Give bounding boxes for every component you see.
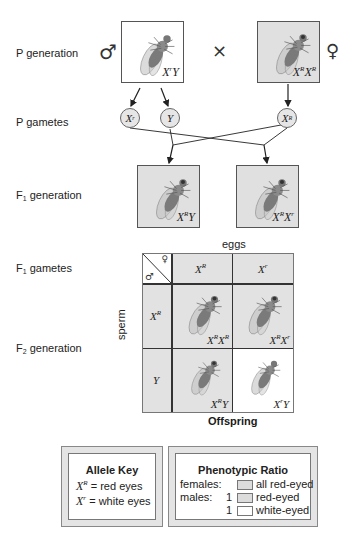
ratio-label: red-eyed bbox=[256, 491, 299, 503]
ratio-label: white-eyed bbox=[256, 504, 309, 516]
offspring-cell-xry: XrY bbox=[233, 349, 293, 412]
egg-allele-1: XR bbox=[195, 262, 206, 275]
allele-key-inner: Allele Key XR = red eyes Xr = white eyes bbox=[68, 453, 156, 520]
f1-female-fly-card: XRXr bbox=[236, 165, 299, 228]
punnett-corner: ♀ ♂ bbox=[143, 254, 171, 283]
sperm-allele-2: Y bbox=[153, 374, 159, 386]
fly-icon bbox=[177, 287, 227, 337]
ratio-label: all red-eyed bbox=[256, 478, 313, 490]
genotype-label: XRXR bbox=[207, 333, 229, 346]
ratio-row-males-white: 1 white-eyed bbox=[176, 504, 310, 517]
label-f1-gametes: F1 gametes bbox=[16, 262, 72, 275]
eggs-label: eggs bbox=[222, 238, 246, 250]
genotype-label: XRXr bbox=[272, 210, 294, 225]
allele-entry-red: XR = red eyes bbox=[76, 479, 155, 494]
gamete-xr-male: Xr bbox=[120, 108, 140, 128]
allele-key-panel: Allele Key XR = red eyes Xr = white eyes bbox=[61, 446, 163, 527]
ratio-count: 1 bbox=[226, 504, 232, 516]
offspring-cell-xRxr: XRXr bbox=[233, 285, 293, 348]
male-symbol-icon: ♂ bbox=[145, 271, 154, 282]
punnett-square: ♀ ♂ XR Xr XR Y XRXR XRXr XRY XrY bbox=[142, 253, 294, 413]
ratio-row-males-red: males: 1 red-eyed bbox=[176, 491, 310, 504]
swatch-white bbox=[237, 506, 253, 516]
female-symbol-icon: ♀ bbox=[161, 254, 168, 264]
offspring-cell-xRxR: XRXR bbox=[173, 285, 232, 348]
ratio-row-females: females: all red-eyed bbox=[176, 478, 310, 491]
ratio-group: females: bbox=[180, 478, 222, 490]
sperm-label: sperm bbox=[115, 309, 127, 340]
genotype-label: XRY bbox=[211, 397, 228, 410]
fly-icon bbox=[181, 353, 225, 397]
gamete-y: Y bbox=[160, 108, 180, 128]
egg-allele-2: Xr bbox=[258, 262, 267, 275]
swatch-gray bbox=[237, 493, 253, 503]
phenotypic-ratio-inner: Phenotypic Ratio females: all red-eyed m… bbox=[175, 453, 311, 520]
fly-icon bbox=[241, 353, 285, 397]
phenotypic-ratio-title: Phenotypic Ratio bbox=[176, 464, 310, 476]
fly-icon bbox=[237, 287, 287, 337]
swatch-gray bbox=[237, 480, 253, 490]
genotype-label: XRY bbox=[177, 210, 195, 225]
ratio-group: males: bbox=[180, 491, 212, 503]
label-f2-generation: F2 generation bbox=[16, 342, 82, 355]
sperm-allele-1: XR bbox=[150, 309, 161, 322]
gamete-xR-female: XR bbox=[277, 108, 297, 128]
f1-male-fly-card: XRY bbox=[137, 165, 200, 228]
phenotypic-ratio-panel: Phenotypic Ratio females: all red-eyed m… bbox=[168, 446, 318, 527]
allele-entry-white: Xr = white eyes bbox=[76, 494, 155, 509]
genotype-label: XrY bbox=[273, 397, 289, 410]
offspring-label: Offspring bbox=[208, 415, 258, 427]
ratio-count: 1 bbox=[226, 491, 232, 503]
allele-key-title: Allele Key bbox=[69, 464, 155, 476]
offspring-cell-xRy: XRY bbox=[173, 349, 232, 412]
genotype-label: XRXr bbox=[270, 333, 290, 346]
